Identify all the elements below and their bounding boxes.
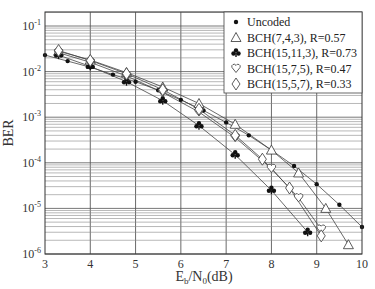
club-marker: [231, 150, 240, 159]
dot-marker: [337, 203, 341, 207]
triangle-marker: [343, 240, 353, 249]
y-tick-label: 10-6: [22, 246, 41, 261]
x-tick-label: 10: [356, 257, 368, 271]
x-tick-label: 5: [133, 257, 139, 271]
dot-marker: [65, 59, 69, 63]
legend-item-label: BCH(15,11,3), R=0.73: [247, 46, 357, 60]
dot-marker: [315, 182, 319, 186]
dot-marker: [224, 120, 228, 124]
x-tick-label: 8: [268, 257, 274, 271]
triangle-marker: [266, 145, 276, 154]
x-tick-label: 4: [87, 257, 93, 271]
legend-item-label: Uncoded: [247, 15, 290, 29]
y-tick-label: 10-4: [22, 155, 41, 170]
dot-marker: [247, 133, 251, 137]
triangle-marker: [321, 203, 331, 212]
legend-item-label: BCH(15,5,7), R=0.33: [247, 77, 351, 91]
heart-marker: [294, 194, 302, 202]
y-tick-label: 10-5: [22, 200, 41, 215]
triangle-marker: [230, 119, 240, 128]
y-tick-label: 10-3: [22, 109, 41, 124]
x-axis-ticks: 345678910: [42, 257, 368, 271]
y-tick-label: 10-2: [22, 64, 41, 79]
legend-item-label: BCH(7,4,3), R=0.57: [247, 31, 345, 45]
dot-marker: [133, 80, 137, 84]
diamond-marker: [86, 55, 94, 67]
x-tick-label: 9: [314, 257, 320, 271]
legend: UncodedBCH(7,4,3), R=0.57BCH(15,11,3), R…: [224, 12, 362, 93]
dot-marker: [111, 72, 115, 76]
dot-marker: [292, 164, 296, 168]
legend-item-label: BCH(15,7,5), R=0.47: [247, 62, 351, 76]
x-axis-label: Eb/N0(dB): [175, 269, 233, 286]
y-axis-ticks: 10-110-210-310-410-510-6: [22, 18, 41, 261]
x-tick-label: 3: [42, 257, 48, 271]
ber-chart: 345678910 10-110-210-310-410-510-6 BER E…: [0, 0, 375, 289]
y-tick-label: 10-1: [22, 18, 41, 33]
dot-marker: [179, 98, 183, 102]
y-axis-label: BER: [1, 119, 16, 147]
dot-marker: [234, 20, 238, 24]
